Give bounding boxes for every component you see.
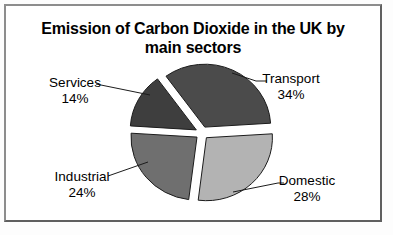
label-transport-name: Transport bbox=[262, 71, 319, 87]
label-industrial: Industrial 24% bbox=[55, 169, 110, 201]
pie-slice-industrial bbox=[131, 133, 197, 199]
label-domestic: Domestic 28% bbox=[279, 173, 335, 205]
label-services-name: Services bbox=[49, 75, 101, 91]
pie-slices-group bbox=[130, 64, 272, 200]
pie-slice-domestic bbox=[198, 134, 272, 201]
label-services: Services 14% bbox=[49, 75, 101, 107]
label-industrial-name: Industrial bbox=[55, 169, 110, 185]
leader-line-services bbox=[96, 84, 150, 95]
label-domestic-name: Domestic bbox=[279, 173, 335, 189]
label-domestic-pct: 28% bbox=[279, 189, 335, 205]
label-transport-pct: 34% bbox=[262, 87, 319, 103]
label-industrial-pct: 24% bbox=[55, 185, 110, 201]
label-transport: Transport 34% bbox=[262, 71, 319, 103]
label-services-pct: 14% bbox=[49, 91, 101, 107]
